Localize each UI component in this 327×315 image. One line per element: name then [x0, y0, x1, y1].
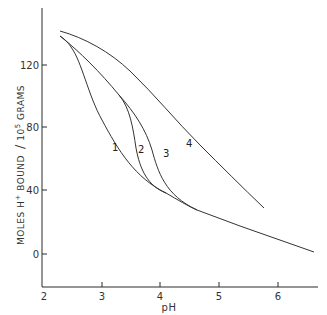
x-ticks: 2 3 4 5 6	[41, 282, 281, 302]
curve-4	[60, 31, 264, 208]
y-tick-label-40: 40	[26, 185, 39, 196]
curve-1	[60, 36, 166, 193]
y-tick-label-0: 0	[33, 249, 39, 260]
titration-chart: 120 80 40 0 2 3 4 5 6 pH MOLES H+ BOUND/…	[0, 0, 327, 315]
common-tail	[166, 193, 314, 252]
x-axis-title: pH	[162, 302, 177, 313]
x-tick-label-5: 5	[216, 291, 222, 302]
curve-label-2: 2	[138, 144, 144, 155]
curve-label-3: 3	[163, 148, 169, 159]
svg-text:MOLES H+ BOUND/ 105 GRAMS: MOLES H+ BOUND/ 105 GRAMS	[12, 85, 27, 245]
curve-label-4: 4	[186, 138, 192, 149]
x-tick-label-3: 3	[99, 291, 105, 302]
x-tick-label-4: 4	[157, 291, 163, 302]
curve-3	[60, 36, 197, 210]
x-tick-label-6: 6	[275, 291, 281, 302]
y-tick-label-120: 120	[20, 60, 39, 71]
y-tick-label-80: 80	[26, 122, 39, 133]
y-axis-title: MOLES H+ BOUND/ 105 GRAMS	[12, 85, 27, 245]
x-tick-label-2: 2	[41, 291, 47, 302]
curve-label-1: 1	[112, 142, 118, 153]
